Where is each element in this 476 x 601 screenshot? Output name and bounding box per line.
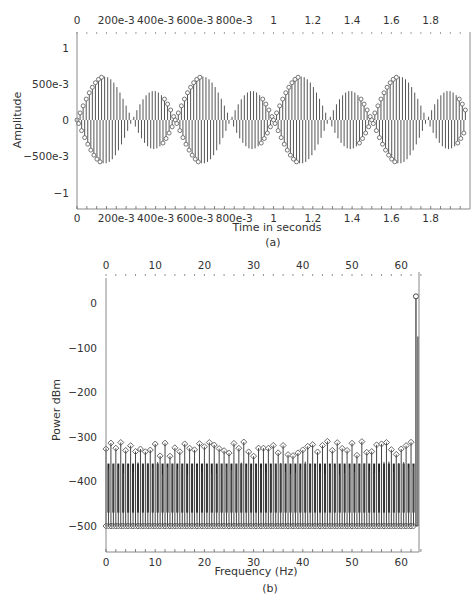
- chart-a-x-tick-label: 0: [74, 212, 81, 224]
- chart-a-caption: (a): [265, 236, 280, 249]
- chart-b-y-tick-label: 0: [90, 297, 97, 309]
- chart-a-top-tick-label: 1.2: [304, 14, 321, 26]
- chart-b-y-tick-label: −300: [68, 431, 97, 443]
- chart-a-top-tick-label: 200e-3: [98, 14, 135, 26]
- chart-a-top-tick-label: 800e-3: [216, 14, 253, 26]
- chart-a-amplitude-vs-time: 0200e-3400e-3600e-3800e-311.21.41.61.802…: [11, 14, 470, 249]
- chart-b-top-tick-label: 10: [149, 259, 162, 271]
- chart-b-top-tick-label: 30: [247, 259, 260, 271]
- chart-a-x-tick-label: 600e-3: [176, 212, 213, 224]
- figure-canvas: 0200e-3400e-3600e-3800e-311.21.41.61.802…: [0, 0, 476, 601]
- chart-b-x-tick-label: 40: [296, 556, 309, 568]
- chart-b-top-tick-label: 60: [395, 259, 408, 271]
- chart-a-x-tick-label: 1.8: [422, 212, 439, 224]
- chart-a-xlabel: Time in seconds: [232, 221, 322, 234]
- chart-a-y-tick-label: −1: [54, 187, 69, 199]
- chart-a-y-tick-label: 1: [62, 42, 69, 54]
- chart-a-top-tick-label: 400e-3: [137, 14, 174, 26]
- chart-b-y-tick-label: −100: [68, 342, 97, 354]
- chart-b-x-tick-label: 0: [103, 556, 110, 568]
- chart-a-y-tick-label: 0: [62, 114, 69, 126]
- chart-b-top-tick-label: 0: [103, 259, 110, 271]
- chart-a-x-tick-label: 1.4: [344, 212, 361, 224]
- chart-b-power-spectrum: 010203040506001020304050600−100−200−300−…: [50, 259, 421, 595]
- chart-b-x-tick-label: 60: [395, 556, 408, 568]
- chart-b-x-tick-label: 50: [345, 556, 358, 568]
- chart-b-top-tick-label: 40: [296, 259, 309, 271]
- chart-a-top-tick-label: 0: [74, 14, 81, 26]
- chart-b-y-tick-label: −400: [68, 475, 97, 487]
- chart-b-y-tick-label: −200: [68, 386, 97, 398]
- chart-b-top-tick-label: 50: [345, 259, 358, 271]
- chart-b-y-tick-label: −500: [68, 520, 97, 532]
- chart-a-top-tick-label: 1.4: [344, 14, 361, 26]
- chart-a-y-tick-label: 500e-3: [32, 78, 69, 90]
- chart-a-y-tick-label: −500e-3: [23, 150, 69, 162]
- chart-b-top-tick-label: 20: [198, 259, 211, 271]
- chart-b-x-tick-label: 10: [149, 556, 162, 568]
- chart-a-top-tick-label: 600e-3: [176, 14, 213, 26]
- chart-a-x-tick-label: 400e-3: [137, 212, 174, 224]
- chart-b-stems: [103, 294, 418, 529]
- chart-b-xlabel: Frequency (Hz): [215, 565, 298, 578]
- chart-b-x-tick-label: 20: [198, 556, 211, 568]
- chart-b-peak-marker: [413, 294, 418, 299]
- chart-a-stems: [75, 75, 467, 164]
- chart-a-top-tick-label: 1: [270, 14, 277, 26]
- chart-a-ylabel: Amplitude: [11, 92, 24, 149]
- chart-a-top-tick-label: 1.6: [383, 14, 400, 26]
- chart-b-ylabel: Power dBm: [50, 379, 63, 441]
- chart-a-x-tick-label: 1.6: [383, 212, 400, 224]
- chart-a-top-tick-label: 1.8: [422, 14, 439, 26]
- chart-a-x-tick-label: 200e-3: [98, 212, 135, 224]
- chart-b-caption: (b): [262, 582, 278, 595]
